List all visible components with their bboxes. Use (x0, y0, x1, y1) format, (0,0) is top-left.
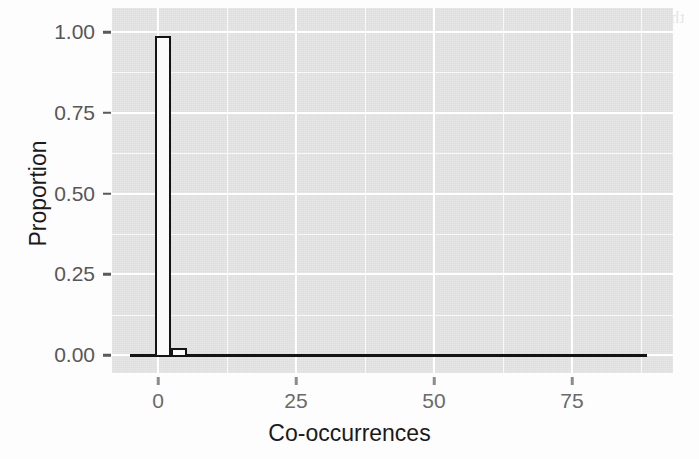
y-axis-tick-label: 0.00 (0, 343, 95, 367)
y-axis-tick-mark (103, 192, 111, 195)
x-axis-tick-mark (295, 377, 298, 385)
axis-layer: Co-occurrences Proportion 0.000.250.500.… (0, 0, 699, 459)
y-axis-tick-label: 0.25 (0, 262, 95, 286)
y-axis-tick-mark (103, 273, 111, 276)
y-axis-tick-label: 0.50 (0, 182, 95, 206)
x-axis-tick-mark (571, 377, 574, 385)
histogram-chart: the latest research on the topic of co-o… (0, 0, 699, 459)
x-axis-tick-label: 0 (152, 389, 164, 413)
y-axis-tick-mark (103, 112, 111, 115)
y-axis-tick-label: 0.75 (0, 101, 95, 125)
y-axis-tick-mark (103, 354, 111, 357)
x-axis-title: Co-occurrences (0, 420, 699, 447)
y-axis-tick-label: 1.00 (0, 20, 95, 44)
x-axis-tick-mark (433, 377, 436, 385)
x-axis-tick-mark (157, 377, 160, 385)
y-axis-tick-mark (103, 31, 111, 34)
x-axis-tick-label: 25 (284, 389, 307, 413)
x-axis-tick-label: 50 (422, 389, 445, 413)
x-axis-tick-label: 75 (560, 389, 583, 413)
